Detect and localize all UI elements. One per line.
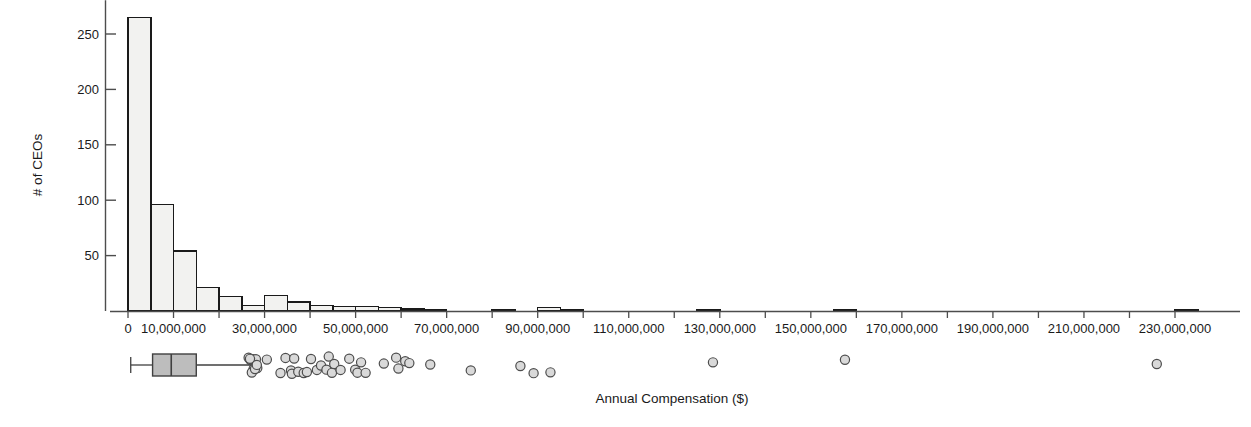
histogram-bar <box>287 302 310 311</box>
boxplot-outlier-point <box>466 366 475 375</box>
boxplot-outlier-point <box>379 359 388 368</box>
boxplot-outlier-point <box>356 358 365 367</box>
boxplot-outlier-point <box>302 367 311 376</box>
boxplot-outlier-point <box>840 355 849 364</box>
boxplot-outlier-point <box>426 360 435 369</box>
x-axis-tick-label: 90,000,000 <box>505 321 570 336</box>
boxplot-outlier-point <box>394 364 403 373</box>
boxplot-outlier-point <box>361 368 370 377</box>
histogram-bar <box>310 305 333 311</box>
x-axis-tick-label: 130,000,000 <box>684 321 756 336</box>
y-axis-tick-label: 50 <box>85 248 99 263</box>
histogram-bar <box>196 288 219 311</box>
y-axis-tick-label: 250 <box>77 27 99 42</box>
boxplot-outlier-point <box>392 353 401 362</box>
ceo-compensation-histogram-boxplot: 50100150200250# of CEOs010,000,00030,000… <box>0 0 1251 427</box>
x-axis-tick-label: 190,000,000 <box>957 321 1029 336</box>
x-axis-tick-label: 30,000,000 <box>232 321 297 336</box>
boxplot-outlier-point <box>262 355 271 364</box>
y-axis-tick-label: 200 <box>77 82 99 97</box>
x-axis-tick-label: 210,000,000 <box>1048 321 1120 336</box>
histogram-bar <box>242 305 265 311</box>
histogram-bar <box>151 205 174 311</box>
histogram-bar <box>174 251 197 311</box>
histogram-bar <box>265 295 288 311</box>
boxplot-outlier-point <box>252 360 261 369</box>
boxplot-outlier-point <box>345 354 354 363</box>
histogram-bar <box>128 17 151 311</box>
chart-figure: 50100150200250# of CEOs010,000,00030,000… <box>0 0 1251 427</box>
boxplot-outlier-point <box>529 369 538 378</box>
boxplot-outlier-point <box>546 368 555 377</box>
boxplot-outlier-point <box>306 354 315 363</box>
histogram-bar <box>538 308 561 311</box>
boxplot-outlier-point <box>708 358 717 367</box>
boxplot-outlier-point <box>290 354 299 363</box>
x-axis-tick-label: 70,000,000 <box>414 321 479 336</box>
boxplot-box <box>153 354 197 376</box>
boxplot-outlier-point <box>281 353 290 362</box>
histogram-bar <box>378 308 401 311</box>
x-axis-tick-label: 110,000,000 <box>593 321 664 336</box>
histogram-bar <box>356 307 379 311</box>
y-axis-tick-label: 150 <box>77 137 99 152</box>
boxplot-outlier-point <box>405 359 414 368</box>
y-axis: 50100150200250# of CEOs <box>30 0 116 311</box>
x-axis-title: Annual Compensation ($) <box>595 391 748 406</box>
boxplot-outlier-point <box>516 361 525 370</box>
x-axis-tick-label: 10,000,000 <box>141 321 206 336</box>
histogram-bar <box>219 297 242 311</box>
histogram-bar <box>401 309 424 311</box>
histogram-bars <box>128 17 1198 311</box>
x-axis-tick-label: 230,000,000 <box>1139 321 1211 336</box>
y-axis-tick-label: 100 <box>77 193 99 208</box>
boxplot-outlier-point <box>327 368 336 377</box>
x-axis-tick-label: 170,000,000 <box>866 321 938 336</box>
boxplot-outlier-point <box>1152 359 1161 368</box>
boxplot-outlier-point <box>276 368 285 377</box>
y-axis-title: # of CEOs <box>30 134 45 197</box>
boxplot-outliers <box>244 352 1161 378</box>
x-axis-tick-label: 150,000,000 <box>775 321 847 336</box>
x-axis: 010,000,00030,000,00050,000,00070,000,00… <box>110 311 1240 336</box>
boxplot-outlier-point <box>336 365 345 374</box>
x-axis-tick-label: 50,000,000 <box>323 321 388 336</box>
x-axis-tick-label: 0 <box>124 321 131 336</box>
boxplot <box>131 352 1162 378</box>
histogram-bar <box>333 307 356 311</box>
